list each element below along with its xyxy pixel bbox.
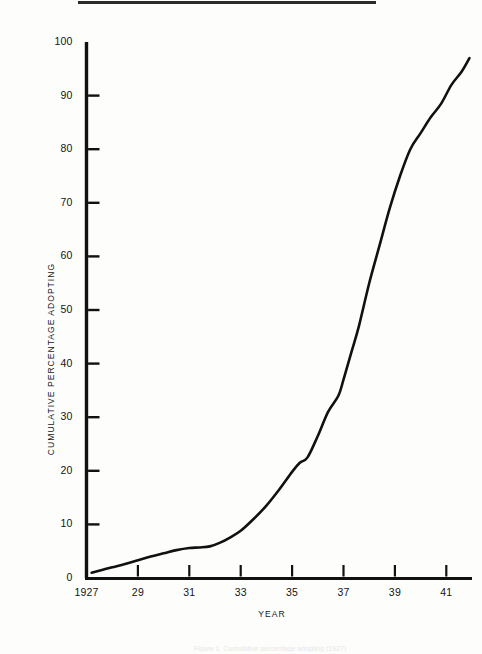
x-axis-tick-label-1927: 1927 bbox=[67, 586, 107, 598]
adoption-curve-figure: 1009080706050403020100 19272931333537394… bbox=[0, 0, 482, 654]
x-axis-title: YEAR bbox=[232, 609, 312, 619]
x-axis-tick-label-31: 31 bbox=[169, 586, 209, 598]
x-axis-tick-label-33: 33 bbox=[221, 586, 261, 598]
x-axis-ticks bbox=[87, 565, 447, 577]
y-axis-tick-label-80: 80 bbox=[39, 142, 73, 154]
x-axis-tick-label-41: 41 bbox=[426, 586, 466, 598]
figure-caption: Figure 1. Cumulative percentage adopting… bbox=[150, 645, 390, 652]
y-axis-title: CUMULATIVE PERCENTAGE ADOPTING bbox=[46, 234, 56, 484]
adoption-curve-line bbox=[92, 58, 470, 573]
y-axis-ticks bbox=[88, 96, 99, 525]
x-axis-tick-label-35: 35 bbox=[272, 586, 312, 598]
y-axis-tick-label-10: 10 bbox=[39, 517, 73, 529]
y-axis-tick-label-70: 70 bbox=[39, 196, 73, 208]
x-axis-tick-label-37: 37 bbox=[324, 586, 364, 598]
figure-page: 1009080706050403020100 19272931333537394… bbox=[0, 0, 482, 654]
y-axis-tick-label-0: 0 bbox=[39, 571, 73, 583]
x-axis-tick-label-29: 29 bbox=[118, 586, 158, 598]
y-axis-tick-label-100: 100 bbox=[39, 35, 73, 47]
x-axis-tick-label-39: 39 bbox=[375, 586, 415, 598]
y-axis-tick-label-90: 90 bbox=[39, 89, 73, 101]
